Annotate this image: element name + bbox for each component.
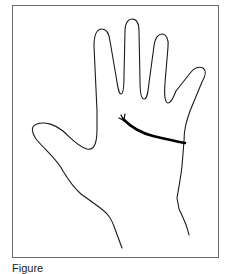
hand-outline — [32, 19, 205, 248]
heart-line — [123, 119, 185, 143]
figure-caption: Figure — [12, 262, 222, 274]
figure-frame — [12, 5, 219, 258]
hand-illustration — [1, 1, 227, 267]
heart-line-fork — [119, 114, 125, 120]
